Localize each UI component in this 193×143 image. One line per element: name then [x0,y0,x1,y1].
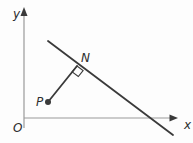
y-axis-arrow-icon [21,7,28,16]
diagram-canvas: O x y P N [0,0,193,143]
point-p-label: P [36,95,44,109]
point-p-dot [45,99,51,105]
figure: O x y P N [0,0,193,143]
x-axis-label: x [183,118,192,132]
point-n-label: N [81,51,90,65]
x-axis-arrow-icon [170,115,179,122]
origin-label: O [13,121,22,135]
y-axis-label: y [12,7,21,21]
main-line [48,41,173,135]
